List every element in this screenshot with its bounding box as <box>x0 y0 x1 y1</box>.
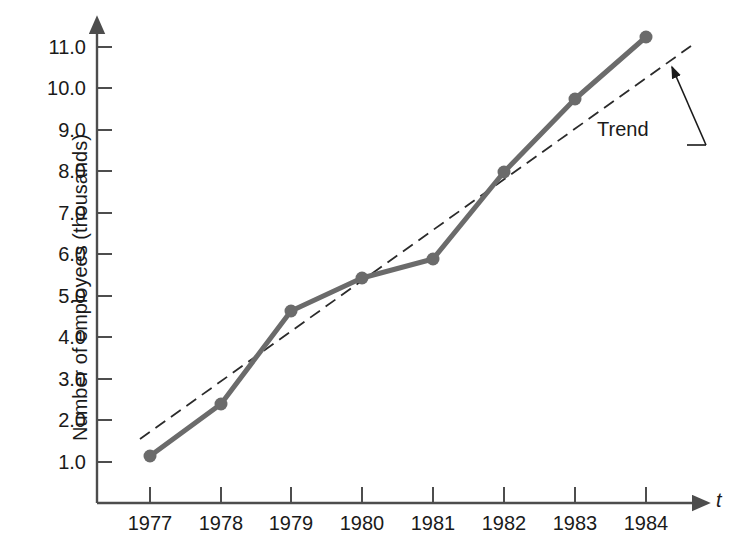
data-point <box>215 398 228 411</box>
x-tick-label-1983: 1983 <box>553 512 598 535</box>
x-tick-label-1979: 1979 <box>269 512 314 535</box>
chart-figure: 1.0 2.0 3.0 4.0 5.0 6.0 7.0 8.0 9.0 10.0… <box>0 0 739 556</box>
y-axis-ticks <box>97 47 112 462</box>
data-point <box>356 272 369 285</box>
trend-leader-line <box>672 67 706 145</box>
data-point <box>498 166 511 179</box>
x-axis-title: t <box>716 489 722 512</box>
data-point <box>285 305 298 318</box>
x-tick-label-1980: 1980 <box>340 512 385 535</box>
chart-plot-area <box>0 0 739 556</box>
data-point <box>569 93 582 106</box>
data-point <box>144 450 157 463</box>
data-point-markers <box>144 31 653 463</box>
x-tick-label-1984: 1984 <box>624 512 669 535</box>
data-point <box>427 253 440 266</box>
y-tick-label-11: 11.0 <box>10 36 86 59</box>
x-tick-label-1981: 1981 <box>411 512 456 535</box>
y-axis-title: Number of employees (thousands) <box>69 78 92 498</box>
x-tick-label-1982: 1982 <box>482 512 527 535</box>
trend-line <box>140 46 691 439</box>
x-axis-ticks <box>150 487 646 503</box>
trend-annotation-label: Trend <box>597 118 649 141</box>
x-tick-label-1978: 1978 <box>199 512 244 535</box>
x-tick-label-1977: 1977 <box>128 512 173 535</box>
data-point <box>640 31 653 44</box>
